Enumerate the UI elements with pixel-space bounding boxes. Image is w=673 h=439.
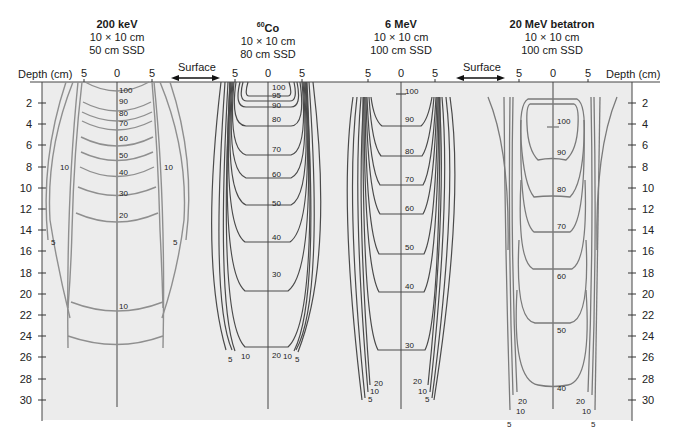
left-depth-tick-labels: 246 81012 141618 202224 262830 [20, 97, 32, 406]
svg-text:50: 50 [405, 243, 414, 252]
svg-text:24: 24 [20, 330, 32, 342]
svg-text:10: 10 [283, 352, 292, 361]
svg-text:80: 80 [272, 115, 281, 124]
svg-text:5: 5 [585, 67, 591, 79]
svg-text:26: 26 [20, 351, 32, 363]
surface-arrow-right [456, 75, 505, 81]
svg-text:60: 60 [272, 170, 281, 179]
svg-text:70: 70 [272, 145, 281, 154]
svg-text:50: 50 [119, 151, 128, 160]
svg-text:8: 8 [26, 161, 32, 173]
svg-text:70: 70 [119, 119, 128, 128]
svg-text:60: 60 [557, 272, 566, 281]
isodose-diagram: 246 81012 141618 202224 262830 246 81012… [0, 0, 673, 439]
svg-text:5: 5 [149, 67, 155, 79]
svg-text:5: 5 [516, 67, 522, 79]
svg-text:80: 80 [557, 185, 566, 194]
svg-text:22: 22 [20, 309, 32, 321]
svg-text:50: 50 [272, 199, 281, 208]
svg-text:5: 5 [51, 238, 56, 247]
svg-text:5: 5 [228, 355, 233, 364]
svg-text:10: 10 [642, 182, 654, 194]
svg-text:6: 6 [642, 139, 648, 151]
svg-text:20: 20 [518, 397, 527, 406]
svg-text:10: 10 [582, 407, 591, 416]
svg-text:5: 5 [507, 420, 512, 429]
svg-text:12: 12 [20, 203, 32, 215]
svg-text:40: 40 [272, 233, 281, 242]
svg-text:20: 20 [119, 211, 128, 220]
svg-text:20: 20 [642, 288, 654, 300]
svg-text:2: 2 [26, 97, 32, 109]
svg-text:100: 100 [557, 117, 571, 126]
svg-text:30: 30 [642, 394, 654, 406]
svg-text:12: 12 [642, 203, 654, 215]
svg-text:80: 80 [119, 109, 128, 118]
svg-text:8: 8 [642, 161, 648, 173]
right-depth-tick-labels: 246 81012 141618 202224 262830 [642, 97, 654, 406]
svg-text:5: 5 [591, 420, 596, 429]
svg-text:0: 0 [398, 67, 404, 79]
svg-text:18: 18 [20, 267, 32, 279]
svg-text:20: 20 [413, 377, 422, 386]
svg-text:30: 30 [20, 394, 32, 406]
svg-text:28: 28 [642, 373, 654, 385]
svg-text:60: 60 [119, 134, 128, 143]
svg-text:60: 60 [405, 204, 414, 213]
svg-text:40: 40 [405, 282, 414, 291]
surface-arrow-left [171, 75, 220, 81]
svg-text:10: 10 [60, 163, 69, 172]
svg-text:4: 4 [642, 118, 648, 130]
svg-text:30: 30 [272, 270, 281, 279]
svg-text:50: 50 [557, 326, 566, 335]
svg-text:0: 0 [265, 67, 271, 79]
svg-text:40: 40 [557, 384, 566, 393]
svg-text:90: 90 [405, 115, 414, 124]
svg-text:70: 70 [405, 175, 414, 184]
svg-text:2: 2 [642, 97, 648, 109]
svg-text:6: 6 [26, 139, 32, 151]
svg-text:10: 10 [241, 352, 250, 361]
svg-text:28: 28 [20, 373, 32, 385]
svg-text:90: 90 [272, 101, 281, 110]
svg-text:24: 24 [642, 330, 654, 342]
svg-text:30: 30 [405, 341, 414, 350]
svg-text:95: 95 [272, 91, 281, 100]
phantom-background [42, 82, 632, 420]
svg-text:26: 26 [642, 351, 654, 363]
svg-text:5: 5 [81, 67, 87, 79]
svg-text:20: 20 [576, 397, 585, 406]
svg-text:5: 5 [368, 395, 373, 404]
svg-text:30: 30 [119, 189, 128, 198]
lateral-tick-labels: 505 505 505 505 [81, 67, 591, 79]
svg-text:100: 100 [119, 86, 133, 95]
svg-text:10: 10 [516, 407, 525, 416]
svg-text:0: 0 [550, 67, 556, 79]
svg-text:5: 5 [299, 67, 305, 79]
svg-text:40: 40 [119, 168, 128, 177]
svg-text:20: 20 [272, 351, 281, 360]
svg-text:0: 0 [114, 67, 120, 79]
svg-text:80: 80 [405, 147, 414, 156]
svg-text:10: 10 [119, 302, 128, 311]
svg-text:5: 5 [365, 67, 371, 79]
svg-text:16: 16 [20, 245, 32, 257]
svg-text:20: 20 [20, 288, 32, 300]
svg-text:5: 5 [232, 67, 238, 79]
svg-text:22: 22 [642, 309, 654, 321]
svg-text:14: 14 [20, 224, 32, 236]
svg-text:18: 18 [642, 267, 654, 279]
svg-text:16: 16 [642, 245, 654, 257]
svg-text:100: 100 [405, 87, 419, 96]
svg-text:5: 5 [425, 395, 430, 404]
svg-text:70: 70 [557, 222, 566, 231]
svg-text:90: 90 [557, 148, 566, 157]
svg-text:14: 14 [642, 224, 654, 236]
svg-text:4: 4 [26, 118, 32, 130]
svg-text:5: 5 [173, 238, 178, 247]
svg-text:10: 10 [164, 163, 173, 172]
svg-text:10: 10 [20, 182, 32, 194]
svg-text:90: 90 [119, 97, 128, 106]
svg-text:5: 5 [432, 67, 438, 79]
svg-text:5: 5 [295, 355, 300, 364]
